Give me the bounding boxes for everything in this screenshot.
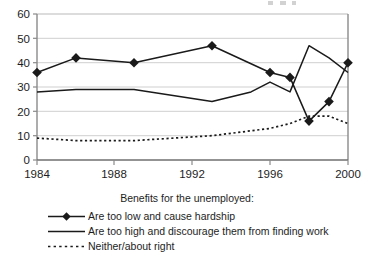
legend-item-are-too-high: Are too high and discourage them from fi… [48, 225, 329, 237]
x-tick-label: 2000 [335, 168, 361, 180]
legend-item-label: Neither/about right [88, 240, 174, 252]
x-tick-label: 1996 [257, 168, 283, 180]
y-tick-label: 40 [17, 57, 30, 69]
legend-title: Benefits for the unemployed: [120, 192, 254, 204]
y-tick-label: 50 [17, 33, 30, 45]
y-tick-label: 0 [24, 154, 30, 166]
y-tick-label: 10 [17, 130, 30, 142]
y-tick-label: 30 [17, 81, 30, 93]
y-tick-label: 60 [17, 8, 30, 20]
line-chart: 60 50 40 30 20 10 0 1984 1988 1992 1996 … [0, 0, 375, 258]
legend-item-label: Are too low and cause hardship [88, 210, 235, 222]
x-tick-label: 1992 [179, 168, 205, 180]
chart-container: 60 50 40 30 20 10 0 1984 1988 1992 1996 … [0, 0, 375, 258]
y-tick-label: 20 [17, 106, 30, 118]
x-tick-label: 1988 [101, 168, 127, 180]
legend-item-label: Are too high and discourage them from fi… [88, 225, 329, 237]
x-tick-label: 1984 [24, 168, 50, 180]
